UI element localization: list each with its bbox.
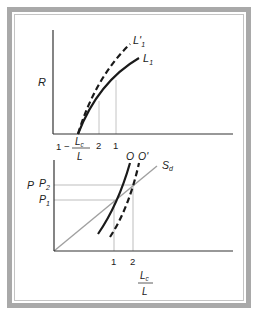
y-axis-label-P: P	[27, 179, 34, 191]
upper-tick-1: 1	[113, 140, 118, 151]
upper-x-label-prefix: 1 −	[56, 141, 70, 152]
lower-x-label-numerator: Lc	[140, 270, 150, 282]
diagram: R L'1 L1 2 1 1 − Lc L O O' Sd P P2 P1 1 …	[0, 0, 258, 315]
upper-x-label-numerator: Lc	[75, 136, 85, 148]
lower-x-label-denominator: L	[142, 286, 148, 297]
label-L-prime-1: L'1	[133, 34, 145, 48]
y-axis-label-R: R	[38, 76, 46, 88]
upper-x-label-denominator: L	[77, 151, 83, 162]
supply-line-Sd	[54, 166, 157, 251]
tick-label-P2: P2	[39, 177, 50, 191]
lower-panel: O O' Sd P P2 P1 1 2 Lc L	[27, 150, 233, 297]
label-O-prime: O'	[138, 150, 149, 162]
label-O: O	[126, 150, 134, 162]
lower-tick-1: 1	[111, 256, 116, 267]
lower-tick-2: 2	[130, 256, 135, 267]
label-Sd: Sd	[162, 159, 174, 172]
upper-panel: R L'1 L1 2 1 1 − Lc L	[38, 30, 233, 162]
label-L-1: L1	[143, 52, 153, 66]
tick-label-P1: P1	[39, 193, 50, 207]
upper-tick-2: 2	[96, 140, 101, 151]
